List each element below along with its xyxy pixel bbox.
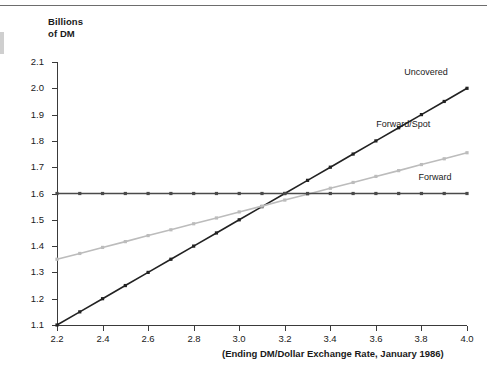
data-point-marker: [124, 240, 127, 243]
data-point-marker: [124, 284, 127, 287]
data-point-marker: [169, 192, 172, 195]
data-point-marker: [465, 151, 468, 154]
data-point-marker: [283, 192, 286, 195]
chart-plot-area: [0, 0, 497, 371]
data-point-marker: [192, 245, 195, 248]
data-point-marker: [101, 246, 104, 249]
data-point-marker: [374, 139, 377, 142]
series-annotation-forward-spot: Forward/Spot: [376, 119, 430, 129]
data-point-marker: [55, 192, 58, 195]
data-point-marker: [260, 192, 263, 195]
data-point-marker: [374, 192, 377, 195]
x-axis-title: (Ending DM/Dollar Exchange Rate, January…: [222, 348, 444, 359]
data-point-marker: [78, 252, 81, 255]
data-point-marker: [147, 271, 150, 274]
data-point-marker: [283, 198, 286, 201]
data-point-marker: [169, 258, 172, 261]
data-point-marker: [443, 157, 446, 160]
data-point-marker: [352, 181, 355, 184]
data-point-marker: [192, 192, 195, 195]
series-annotation-uncovered: Uncovered: [404, 67, 448, 77]
series-forward: [55, 192, 468, 195]
series-forward-spot: [55, 151, 468, 261]
data-point-marker: [443, 192, 446, 195]
data-point-marker: [329, 166, 332, 169]
data-point-marker: [169, 228, 172, 231]
data-point-marker: [78, 310, 81, 313]
data-point-marker: [420, 113, 423, 116]
data-point-marker: [397, 169, 400, 172]
data-point-marker: [238, 210, 241, 213]
series-annotation-forward: Forward: [419, 172, 452, 182]
data-point-marker: [420, 192, 423, 195]
data-point-marker: [101, 192, 104, 195]
data-point-marker: [465, 87, 468, 90]
data-point-marker: [55, 323, 58, 326]
data-point-marker: [238, 218, 241, 221]
data-point-marker: [397, 192, 400, 195]
data-point-marker: [260, 205, 263, 208]
data-point-marker: [215, 192, 218, 195]
data-point-marker: [306, 192, 309, 195]
data-point-marker: [329, 187, 332, 190]
data-point-marker: [215, 231, 218, 234]
data-point-marker: [374, 175, 377, 178]
data-point-marker: [420, 163, 423, 166]
data-point-marker: [215, 216, 218, 219]
data-point-marker: [329, 192, 332, 195]
data-point-marker: [124, 192, 127, 195]
data-point-marker: [78, 192, 81, 195]
data-point-marker: [443, 100, 446, 103]
data-point-marker: [465, 192, 468, 195]
data-point-marker: [147, 192, 150, 195]
data-point-marker: [192, 222, 195, 225]
data-point-marker: [352, 192, 355, 195]
data-point-marker: [55, 258, 58, 261]
chart-figure: Billions of DM 1.11.21.31.41.51.61.71.81…: [0, 0, 497, 371]
data-point-marker: [352, 152, 355, 155]
data-point-marker: [147, 234, 150, 237]
data-point-marker: [238, 192, 241, 195]
data-point-marker: [306, 179, 309, 182]
data-point-marker: [101, 297, 104, 300]
